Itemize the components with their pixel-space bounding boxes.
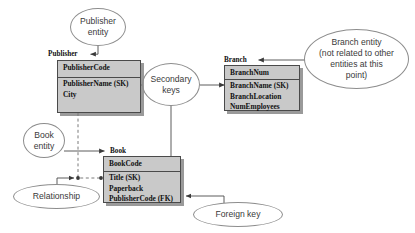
callout-publisher-entity[interactable]: Publisher entity [70,8,126,46]
entity-fields-publisher: PublisherName (SK) City [58,78,140,102]
callout-book-entity-line-1: entity [32,141,57,152]
callout-relationship-line-0: Relationship [31,191,82,202]
entity-key-branchnum: BranchNum [225,66,299,80]
entity-fields-book: Title (SK) Paperback PublisherCode (FK) [104,172,180,207]
callout-branch-entity-line-0: Branch entity [317,37,396,48]
callout-branch-entity-line-3: point) [317,70,396,81]
callout-secondary-keys-line-0: Secondary [148,74,193,85]
entity-fields-branch: BranchName (SK) BranchLocation NumEmploy… [225,80,299,115]
wire-foreign-key [186,196,224,203]
entity-name-branch: Branch [224,56,247,64]
callout-foreign-key-line-0: Foreign key [214,209,263,220]
field-title: Title (SK) [109,173,176,184]
entity-name-book: Book [110,147,126,155]
entity-key-publishercode: PublisherCode [58,61,140,78]
callout-publisher-entity-line-0: Publisher [78,16,118,27]
callout-publisher-entity-line-1: entity [78,27,118,38]
field-branchlocation: BranchLocation [230,92,295,103]
callout-book-entity[interactable]: Book entity [23,123,65,158]
entity-key-bookcode: BookCode [104,157,180,172]
callout-secondary-keys[interactable]: Secondary keys [142,63,200,106]
callout-branch-entity-line-2: entities at this [317,59,396,70]
wire-relationship-dashed [78,113,101,178]
field-numemployees: NumEmployees [230,102,295,113]
field-city: City [63,90,136,101]
entity-table-branch[interactable]: BranchNum BranchName (SK) BranchLocation… [224,65,300,111]
wire-publisher-entity [91,45,99,54]
callout-book-entity-line-0: Book [32,130,57,141]
entity-name-publisher: Publisher [48,50,78,58]
callout-branch-entity-line-1: (not related to other [317,48,396,59]
field-branchname: BranchName (SK) [230,81,295,92]
field-publishername: PublisherName (SK) [63,79,136,90]
callout-relationship[interactable]: Relationship [13,184,100,209]
relationship-dot-left [76,176,80,180]
entity-table-publisher[interactable]: PublisherCode PublisherName (SK) City [57,60,141,113]
entity-table-book[interactable]: BookCode Title (SK) Paperback PublisherC… [103,156,181,203]
field-paperback: Paperback [109,184,176,195]
callout-branch-entity[interactable]: Branch entity (not related to other enti… [304,29,409,89]
field-publishercode-fk: PublisherCode (FK) [109,194,176,205]
callout-secondary-keys-line-1: keys [148,85,193,96]
er-diagram-canvas: Publisher PublisherCode PublisherName (S… [0,0,415,233]
callout-foreign-key[interactable]: Foreign key [193,202,283,227]
